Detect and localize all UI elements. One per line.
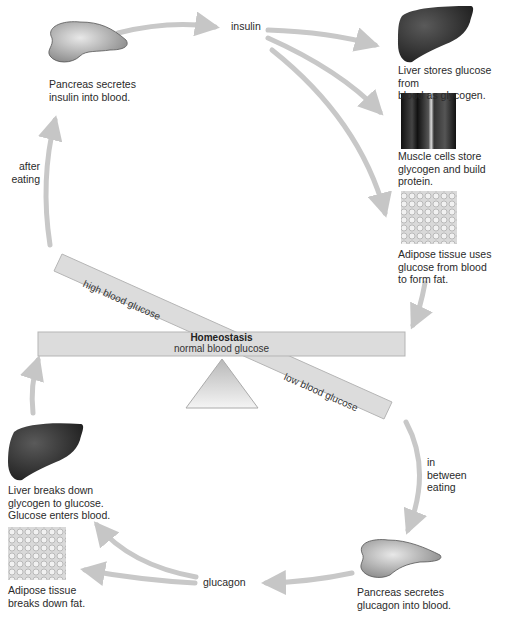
arrow-after-eating (46, 120, 55, 245)
adipose-icon-bottom (8, 527, 66, 580)
homeostasis-box: Homeostasis normal blood glucose (38, 332, 405, 354)
liver-stores-caption: Liver stores glucose from blood as glyco… (398, 64, 508, 102)
glucagon-label: glucagon (203, 576, 246, 589)
pancreas-icon-top (49, 22, 127, 62)
homeostasis-title: Homeostasis (38, 332, 405, 343)
pancreas-icon-bottom (361, 540, 441, 578)
pancreas-insulin-caption: Pancreas secretes insulin into blood. (49, 78, 136, 103)
arrow-in-between-eating (406, 422, 420, 530)
arrow-insulin-to-adipose (272, 50, 385, 213)
adipose-icon-top (401, 191, 457, 244)
arrow-glucagon-to-liver (97, 525, 196, 577)
adipose-breaks-caption: Adipose tissue breaks down fat. (8, 584, 85, 609)
adipose-uses-caption: Adipose tissue uses glucose from blood t… (398, 248, 491, 286)
liver-icon-bottom (8, 423, 83, 480)
muscle-caption: Muscle cells store glycogen and build pr… (398, 150, 486, 188)
arrow-pancreas-to-glucagon (266, 573, 352, 583)
homeostasis-subtitle: normal blood glucose (38, 343, 405, 354)
pancreas-glucagon-caption: Pancreas secretes glucagon into blood. (357, 586, 451, 611)
arrow-liver-to-homeostasis (32, 360, 38, 413)
liver-icon-top (398, 6, 473, 62)
liver-breaks-caption: Liver breaks down glycogen to glucose. G… (8, 484, 110, 522)
arrow-pancreas-to-insulin (118, 25, 215, 33)
arrow-adipose-to-homeostasis (413, 283, 425, 325)
insulin-label: insulin (231, 20, 261, 33)
in-between-eating-label: in between eating (427, 456, 467, 494)
after-eating-label: after eating (10, 160, 40, 185)
fulcrum-triangle (186, 359, 258, 408)
